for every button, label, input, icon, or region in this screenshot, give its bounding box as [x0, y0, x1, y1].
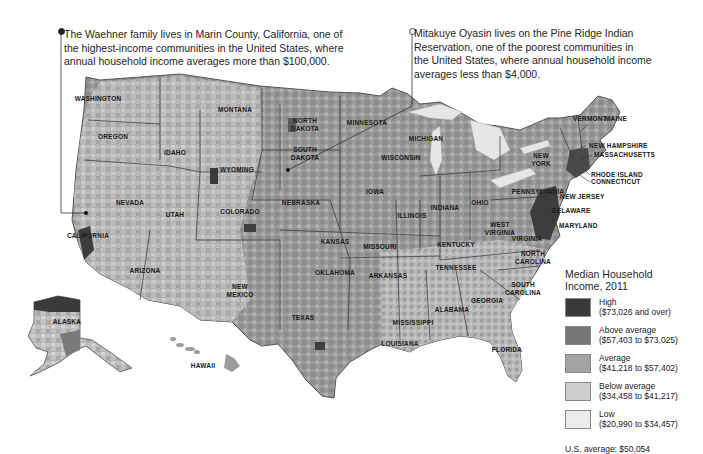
state-label: OREGON — [98, 133, 128, 140]
state-label: YORK — [531, 160, 551, 167]
legend-range: ($41,218 to $57,402) — [599, 364, 678, 374]
state-label: NEW HAMPSHIRE — [589, 142, 648, 149]
state-label: WYOMING — [220, 166, 254, 173]
legend-swatch — [565, 354, 591, 373]
state-label: IOWA — [366, 188, 384, 195]
state-label: VIRGINIA — [512, 235, 543, 242]
state-label: NEW — [533, 152, 549, 159]
state-label: HAWAII — [191, 362, 215, 369]
legend: Median Household Income, 2011 High($73,0… — [565, 268, 700, 454]
state-label: WEST — [490, 221, 510, 228]
legend-range: ($73,026 and over) — [599, 308, 671, 318]
legend-range: ($57,403 to $73,025) — [599, 336, 678, 346]
state-label: IDAHO — [164, 149, 186, 156]
state-label: MINNESOTA — [347, 119, 387, 126]
state-label: SOUTH — [293, 146, 317, 153]
callout-marin-county: The Waehner family lives in Marin County… — [64, 28, 374, 69]
state-label: MISSISSIPPI — [393, 319, 434, 326]
state-label: ARIZONA — [129, 267, 160, 274]
state-label: DELAWARE — [552, 207, 591, 214]
legend-title-line: Median Household — [565, 268, 700, 280]
legend-item-below-average: Below average($34,458 to $41,217) — [565, 382, 700, 410]
legend-swatch — [565, 410, 591, 429]
state-label: WISCONSIN — [381, 154, 420, 161]
state-label: CAROLINA — [515, 258, 551, 265]
callout-line: the highest-income communities in the Un… — [64, 42, 374, 56]
state-label: RHODE ISLAND — [591, 171, 643, 178]
us-average: U.S. average: $50,054 — [565, 444, 700, 454]
state-label: GEORGIA — [471, 297, 503, 304]
callout-line: Mitakuye Oyasin lives on the Pine Ridge … — [414, 27, 669, 41]
legend-item-high: High($73,026 and over) — [565, 298, 700, 326]
state-label: SOUTH — [511, 281, 535, 288]
state-label: MASSACHUSETTS — [594, 151, 656, 158]
legend-swatch — [565, 382, 591, 401]
legend-range: ($34,458 to $41,217) — [599, 392, 678, 402]
state-label: ARKANSAS — [369, 272, 408, 279]
state-label: TEXAS — [292, 314, 315, 321]
state-label: KANSAS — [321, 238, 350, 245]
state-label: WASHINGTON — [75, 95, 122, 102]
callout-line: the United States, where annual househol… — [414, 54, 669, 68]
state-label: MEXICO — [227, 291, 254, 298]
state-label: UTAH — [166, 211, 184, 218]
state-label: PENNSYLVANIA — [512, 188, 564, 195]
state-label: NEVADA — [116, 199, 144, 206]
state-label: INDIANA — [431, 204, 460, 211]
legend-swatch — [565, 326, 591, 345]
state-label: ILLINOIS — [397, 212, 427, 219]
callout-line: The Waehner family lives in Marin County… — [64, 28, 374, 42]
state-label: VERMONT — [573, 115, 607, 122]
state-label: MISSOURI — [363, 243, 397, 250]
state-label: CALIFORNIA — [67, 232, 109, 239]
legend-item-above-average: Above average($57,403 to $73,025) — [565, 326, 700, 354]
state-label: NEW — [232, 283, 248, 290]
legend-item-low: Low($20,990 to $34,457) — [565, 410, 700, 438]
state-label: MONTANA — [218, 106, 252, 113]
legend-swatch — [565, 298, 591, 317]
state-label: NEW JERSEY — [560, 193, 605, 200]
state-label: NEBRASKA — [282, 199, 321, 206]
state-label: FLORIDA — [492, 346, 522, 353]
state-label: OKLAHOMA — [315, 269, 355, 276]
callout-line: averages less than $4,000. — [414, 68, 669, 82]
legend-title-line: Income, 2011 — [565, 280, 700, 292]
state-label: DAKOTA — [291, 125, 320, 132]
state-label: MAINE — [605, 115, 627, 122]
state-label: LOUISIANA — [381, 340, 419, 347]
state-label: TENNESSEE — [435, 264, 477, 271]
state-label: NORTH — [293, 117, 317, 124]
state-label: NORTH — [521, 250, 545, 257]
state-label: CONNECTICUT — [591, 178, 641, 185]
state-label: DAKOTA — [291, 154, 320, 161]
state-label: KENTUCKY — [437, 241, 475, 248]
state-label: ALASKA — [53, 318, 81, 325]
state-label: VIRGINIA — [485, 229, 516, 236]
legend-item-average: Average($41,218 to $57,402) — [565, 354, 700, 382]
state-label: CAROLINA — [505, 289, 541, 296]
state-label: MARYLAND — [559, 222, 598, 229]
state-label: COLORADO — [220, 208, 260, 215]
callout-line: annual household income averages more th… — [64, 55, 374, 69]
legend-title: Median Household Income, 2011 — [565, 268, 700, 292]
legend-range: ($20,990 to $34,457) — [599, 420, 678, 430]
callout-line: Reservation, one of the poorest communit… — [414, 41, 669, 55]
callout-pine-ridge: Mitakuye Oyasin lives on the Pine Ridge … — [414, 27, 669, 81]
alaska — [28, 296, 132, 376]
state-label: OHIO — [471, 199, 488, 206]
state-label: ALABAMA — [435, 306, 469, 313]
state-label: MICHIGAN — [409, 135, 444, 142]
